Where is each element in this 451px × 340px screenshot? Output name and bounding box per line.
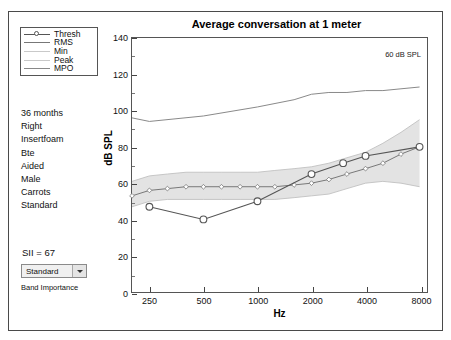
y-tick-label: 140: [113, 33, 128, 43]
y-tick-mark: [132, 294, 137, 295]
x-tick-label: 2000: [303, 296, 323, 306]
legend-swatch-thresh-icon: [23, 30, 51, 38]
series-marker-thresh[interactable]: [146, 203, 153, 210]
y-axis-label: dB SPL: [103, 130, 114, 166]
patient-info-item: Bte: [21, 147, 64, 160]
patient-info-item: Right: [21, 120, 64, 133]
x-tick-mark: [313, 287, 314, 292]
legend-label: MPO: [54, 64, 73, 73]
series-marker-thresh[interactable]: [362, 153, 369, 160]
chart-legend: ThreshRMSMinPeakMPO: [20, 27, 98, 76]
x-tick-mark: [150, 287, 151, 292]
legend-item-mpo[interactable]: MPO: [23, 64, 95, 73]
patient-info-item: Aided: [21, 160, 64, 173]
y-tick-mark: [132, 221, 137, 222]
sii-value: SII = 67: [22, 247, 55, 258]
y-tick-label: 40: [118, 216, 128, 226]
app-root: ThreshRMSMinPeakMPO 36 monthsRightInsert…: [0, 0, 451, 340]
band-importance-label: Band Importance: [21, 283, 78, 292]
x-tick-mark: [367, 287, 368, 292]
side-panel: ThreshRMSMinPeakMPO 36 monthsRightInsert…: [10, 24, 108, 314]
y-tick-mark-minor: [132, 166, 135, 167]
y-tick-mark: [132, 111, 137, 112]
x-tick-label: 250: [142, 296, 157, 306]
y-tick-label: 100: [113, 106, 128, 116]
y-tick-mark-minor: [132, 203, 135, 204]
x-tick-mark: [204, 287, 205, 292]
y-tick-mark: [132, 257, 137, 258]
series-marker-thresh[interactable]: [308, 171, 315, 178]
y-tick-mark-minor: [132, 276, 135, 277]
y-tick-label: 80: [118, 143, 128, 153]
patient-info-item: 36 months: [21, 107, 64, 120]
y-tick-mark-minor: [132, 56, 135, 57]
legend-swatch-min-icon: [23, 47, 51, 55]
x-tick-label: 1000: [248, 296, 268, 306]
y-tick-mark: [132, 38, 137, 39]
patient-info-item: Male: [21, 173, 64, 186]
y-tick-mark: [132, 184, 137, 185]
patient-info-item: Insertfoam: [21, 133, 64, 146]
y-tick-label: 120: [113, 70, 128, 80]
plot-area: 60 dB SPL 020406080100120140250500100020…: [131, 37, 428, 293]
y-tick-label: 20: [118, 252, 128, 262]
x-tick-label: 500: [196, 296, 211, 306]
patient-info-item: Carrots: [21, 186, 64, 199]
legend-swatch-rms-icon: [23, 39, 51, 47]
band-importance-select[interactable]: Standard: [21, 264, 87, 278]
series-marker-thresh[interactable]: [254, 198, 261, 205]
legend-swatch-peak-icon: [23, 56, 51, 64]
band-importance-selected-value: Standard: [22, 267, 72, 276]
y-tick-label: 0: [123, 289, 128, 299]
chart-container: Average conversation at 1 meter dB SPL 6…: [114, 16, 439, 321]
series-marker-thresh[interactable]: [200, 216, 207, 223]
x-tick-mark: [422, 287, 423, 292]
x-axis-label: Hz: [131, 308, 428, 319]
series-marker-thresh[interactable]: [340, 160, 347, 167]
series-marker-thresh[interactable]: [416, 143, 423, 150]
patient-info-item: Standard: [21, 199, 64, 212]
y-tick-mark-minor: [132, 239, 135, 240]
y-tick-mark: [132, 148, 137, 149]
x-tick-label: 4000: [357, 296, 377, 306]
chart-title: Average conversation at 1 meter: [114, 18, 439, 30]
data-series-layer: [132, 38, 427, 292]
chevron-down-icon[interactable]: [72, 265, 86, 277]
legend-swatch-mpo-icon: [23, 65, 51, 73]
y-tick-label: 60: [118, 179, 128, 189]
patient-info-list: 36 monthsRightInsertfoamBteAidedMaleCarr…: [21, 107, 64, 213]
x-tick-mark: [258, 287, 259, 292]
series-line-mpo: [132, 87, 420, 121]
y-tick-mark-minor: [132, 129, 135, 130]
speech-band-region: [132, 120, 420, 207]
y-tick-mark-minor: [132, 93, 135, 94]
x-tick-label: 8000: [412, 296, 432, 306]
y-tick-mark: [132, 75, 137, 76]
